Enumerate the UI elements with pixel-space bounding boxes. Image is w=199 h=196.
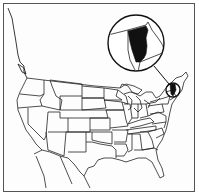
mexico-coast (60, 156, 90, 188)
state-borders (18, 80, 176, 158)
mexico-border-west (34, 150, 42, 154)
us-map (0, 0, 199, 196)
baja-california (36, 156, 46, 188)
vancouver-island (18, 64, 26, 74)
great-lakes (120, 84, 160, 112)
northwest-coastline (8, 8, 27, 78)
vermont-inset (108, 15, 164, 72)
leader-line (154, 66, 169, 84)
